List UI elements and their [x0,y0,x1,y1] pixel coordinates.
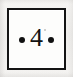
scanned-page-fragment: 4 [0,0,73,77]
scan-artifact-speck [44,29,46,31]
number-box-content: 4 [9,10,64,68]
bullet-dot-left-icon [19,37,25,43]
bullet-dot-right-icon [48,37,54,43]
number-box[interactable]: 4 [7,8,66,70]
figure-number: 4 [30,25,43,51]
